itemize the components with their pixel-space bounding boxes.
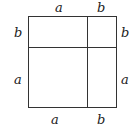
label-bottom-b: b bbox=[97, 112, 105, 127]
label-top-b: b bbox=[97, 0, 105, 15]
label-right-a: a bbox=[121, 72, 129, 87]
outer-square bbox=[29, 17, 117, 108]
label-top-a: a bbox=[55, 0, 63, 15]
square-diagram: a b b a b a a b bbox=[0, 0, 134, 133]
label-left-b: b bbox=[14, 25, 22, 40]
label-right-b: b bbox=[121, 25, 129, 40]
label-left-a: a bbox=[14, 72, 22, 87]
label-bottom-a: a bbox=[51, 112, 59, 127]
